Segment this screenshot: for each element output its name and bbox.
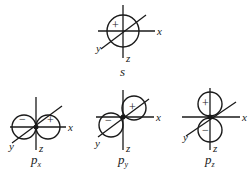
nucleus-dot	[121, 115, 126, 120]
z-axis-label: z	[125, 52, 131, 64]
x-axis-label: x	[241, 111, 247, 123]
orbital-name: pz	[204, 152, 216, 169]
orbital-diagram: + x y z s − + x y z px − + x y z py	[0, 0, 252, 174]
orbital-name: s	[120, 64, 125, 79]
y-axis-label: y	[8, 140, 14, 152]
z-axis-label: z	[212, 142, 218, 154]
x-axis-label: x	[67, 121, 73, 133]
z-axis-label: z	[125, 142, 131, 154]
lobe-sign-positive: +	[129, 100, 136, 114]
s-orbital: + x y z s	[95, 5, 162, 79]
px-orbital: − + x y z px	[8, 97, 73, 169]
lobe-sign-negative: −	[105, 113, 112, 127]
z-axis-label: z	[38, 142, 44, 154]
orbital-name: py	[117, 152, 129, 169]
nucleus-dot	[34, 125, 39, 130]
pz-orbital: + − x y z pz	[182, 88, 247, 169]
x-axis-label: x	[156, 25, 162, 37]
lobe-sign: +	[112, 18, 119, 32]
y-axis-label: y	[95, 42, 101, 54]
py-orbital: − + x y z py	[94, 90, 161, 169]
y-axis-label: y	[94, 137, 100, 149]
orbital-name: px	[30, 152, 42, 169]
x-axis-label: x	[155, 111, 161, 123]
lobe-sign-positive: +	[47, 113, 54, 127]
lobe-sign-negative: −	[19, 112, 26, 126]
lobe-sign-negative: −	[202, 123, 209, 137]
lobe-sign-positive: +	[202, 96, 209, 110]
nucleus-dot	[208, 115, 213, 120]
y-axis-label: y	[182, 131, 188, 143]
